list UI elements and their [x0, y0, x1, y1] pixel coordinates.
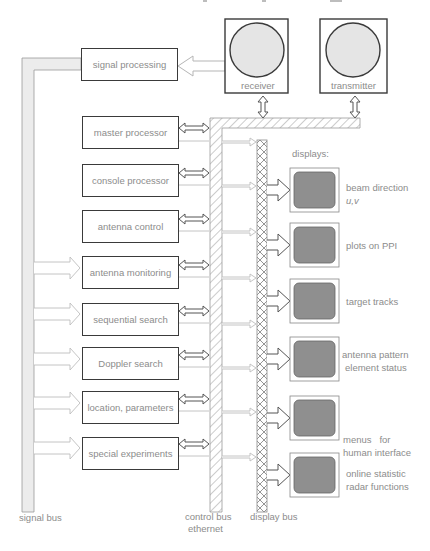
signal-bus-label: signal bus — [19, 512, 62, 523]
display-label-target-tracks: target tracks — [346, 295, 398, 308]
display-label-antenna-pattern: antenna patternelement status — [342, 348, 409, 374]
clipped-title-fragments — [203, 0, 342, 2]
display-label-online-statistic: online statisticradar functions — [346, 467, 409, 493]
receiver-label: receiver — [241, 80, 275, 91]
control-bus-label: control bus — [185, 511, 231, 522]
module-location-parameters: location, parameters — [82, 391, 179, 424]
module-signal-processing: signal processing — [81, 48, 178, 81]
display-label-beam-direction: beam directionu,v — [346, 181, 408, 207]
module-console-processor: console processor — [82, 164, 179, 197]
display-bus — [257, 140, 267, 512]
module-master-processor: master processor — [82, 116, 179, 149]
transmitter-label: transmitter — [331, 80, 376, 91]
ethernet-label: ethernet — [188, 523, 223, 534]
displays-heading: displays: — [292, 148, 329, 159]
display-label-plots-on-ppi: plots on PPI — [346, 239, 397, 252]
hw-bus-arrows — [258, 96, 360, 118]
display-label-menus: menus forhuman interface — [343, 407, 411, 472]
module-antenna-control: antenna control — [82, 210, 179, 243]
module-antenna-monitoring: antenna monitoring — [82, 256, 179, 289]
display-screens — [290, 168, 339, 497]
module-sequential-search: sequential search — [82, 303, 179, 336]
display-bus-label: display bus — [250, 511, 298, 522]
module-special-experiments: special experiments — [82, 437, 179, 470]
module-doppler-search: Doppler search — [82, 347, 179, 380]
receiver-to-signal-processing-arrow — [178, 56, 225, 76]
